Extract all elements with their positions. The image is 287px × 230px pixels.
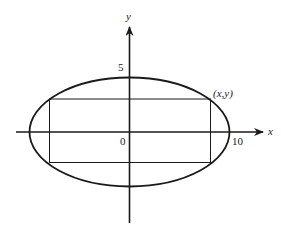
y-tick-label-5: 5 [118, 61, 124, 73]
ellipse-rectangle-diagram: y x 5 0 10 (x,y) [0, 0, 287, 230]
x-tick-label-10: 10 [232, 135, 244, 147]
x-axis-label: x [267, 125, 273, 137]
origin-label: 0 [120, 135, 126, 147]
point-label-xy: (x,y) [213, 87, 233, 100]
y-axis-label: y [125, 10, 131, 22]
